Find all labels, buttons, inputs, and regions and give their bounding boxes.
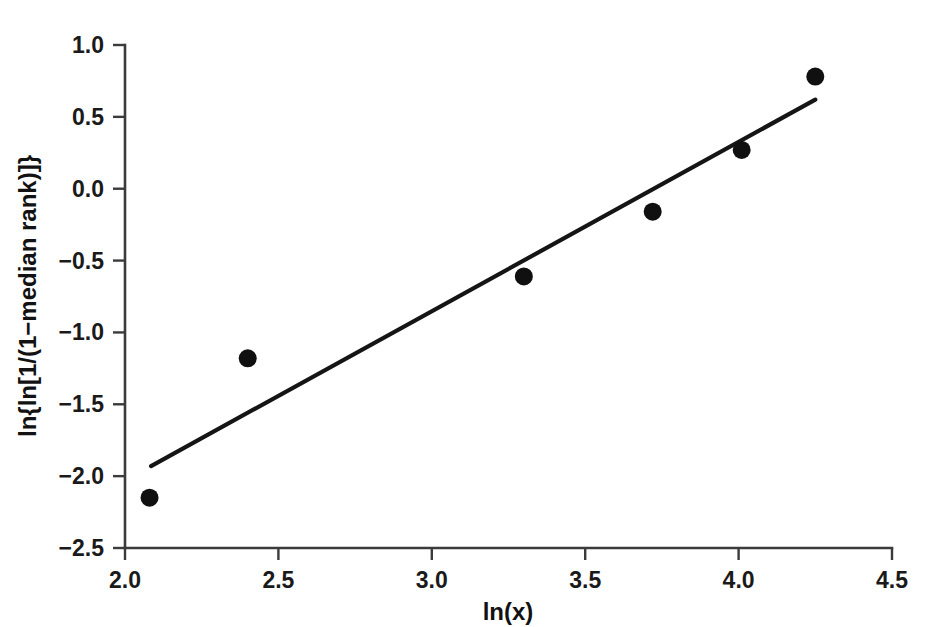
- data-point: [806, 68, 824, 86]
- x-tick-label-2: 2.5: [262, 567, 294, 593]
- y-tick-label-4: −0.5: [59, 248, 105, 274]
- y-tick-label-8: −2.5: [59, 535, 105, 561]
- x-tick-label-4: 3.5: [569, 567, 601, 593]
- y-tick-label-5: −1.0: [59, 319, 104, 345]
- data-point: [644, 203, 662, 221]
- y-tick-label-1: 1.0: [72, 32, 104, 58]
- chart-figure: 1.0 0.5 0.0 −0.5 −1.0 −1.5 −2.0 −2.5 2.0…: [0, 0, 931, 627]
- x-axis-title: ln(x): [483, 598, 534, 625]
- x-tick-label-6: 4.5: [876, 567, 908, 593]
- x-tick-label-5: 4.0: [723, 567, 755, 593]
- data-point: [515, 267, 533, 285]
- y-tick-label-7: −2.0: [59, 463, 104, 489]
- y-tick-label-2: 0.5: [72, 104, 104, 130]
- x-tick-label-3: 3.0: [416, 567, 448, 593]
- weibull-probability-plot: 1.0 0.5 0.0 −0.5 −1.0 −1.5 −2.0 −2.5 2.0…: [0, 0, 931, 627]
- y-tick-label-3: 0.0: [72, 176, 104, 202]
- plot-background: [0, 0, 931, 627]
- y-tick-label-6: −1.5: [59, 391, 105, 417]
- x-tick-label-1: 2.0: [109, 567, 141, 593]
- data-point: [733, 141, 751, 159]
- data-point: [141, 489, 159, 507]
- y-axis-title: ln{ln[1/(1−median rank)]}: [14, 155, 41, 437]
- data-point: [239, 349, 257, 367]
